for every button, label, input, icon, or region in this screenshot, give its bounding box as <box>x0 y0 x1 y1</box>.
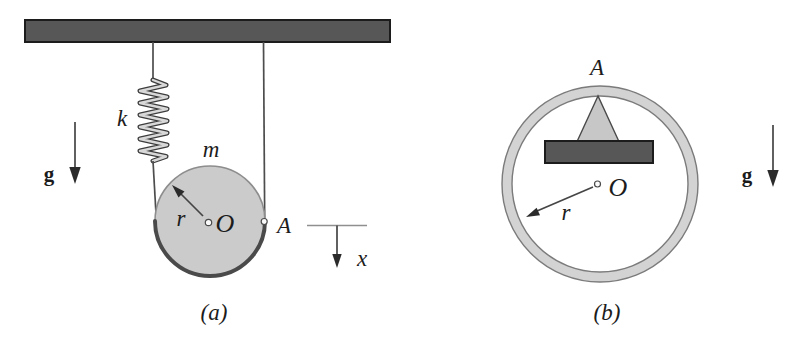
spring-constant-label: k <box>117 106 128 131</box>
figure-a: k m g r O A x (a) <box>25 20 390 325</box>
gravity-label-b: g <box>742 163 753 187</box>
point-a-pin-a <box>261 219 267 225</box>
coordinate-label: x <box>356 246 368 271</box>
physics-figure: k m g r O A x (a) <box>0 0 806 346</box>
gravity-arrowhead-icon-a <box>69 167 80 184</box>
figure-b: A O r g (b) <box>502 55 779 325</box>
cord-left <box>153 161 156 214</box>
center-label-a: O <box>216 209 235 238</box>
support-bar <box>545 141 653 163</box>
radius-label-a: r <box>177 206 187 231</box>
mass-label: m <box>203 137 220 162</box>
ceiling-bar <box>25 20 390 42</box>
point-a-label-b: A <box>588 55 605 80</box>
figure-a-caption: (a) <box>201 300 228 325</box>
radius-label-b: r <box>562 200 572 225</box>
center-label-b: O <box>609 173 628 202</box>
center-pin-a <box>205 219 211 225</box>
gravity-arrowhead-icon-b <box>767 170 778 187</box>
x-axis-arrowhead-icon <box>332 254 341 268</box>
diagram-canvas: k m g r O A x (a) <box>0 0 806 346</box>
center-pin-b <box>595 181 601 187</box>
figure-b-caption: (b) <box>594 300 621 325</box>
gravity-label-a: g <box>44 162 55 186</box>
point-a-label-a: A <box>275 213 292 238</box>
cord-right <box>264 42 265 219</box>
